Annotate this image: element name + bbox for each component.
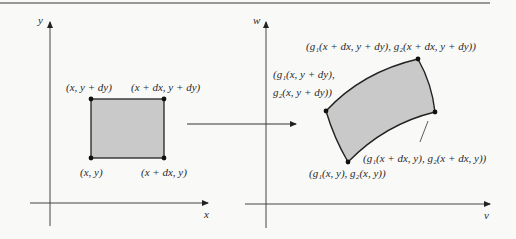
w-axis-label: w — [253, 14, 261, 26]
v-axis-label: v — [484, 209, 489, 221]
diagram-canvas: y x (x, y + dy) (x + dx, y + dy) (x, y) … — [0, 0, 516, 239]
label-top-left-line1: (g₁(x, y + dy), — [273, 68, 335, 81]
label-bottom-left: (x, y) — [80, 166, 103, 179]
label-top-right: (x + dx, y + dy) — [131, 81, 201, 94]
corner-point — [89, 97, 94, 102]
corner-point — [433, 110, 438, 115]
label-top-left: (x, y + dy) — [66, 81, 112, 94]
corner-point — [346, 160, 351, 165]
corner-point — [416, 57, 421, 62]
label-right: (g₁(x + dx, y), g₂(x + dx, y)) — [363, 152, 487, 165]
left-panel: y x (x, y + dy) (x + dx, y + dy) (x, y) … — [30, 14, 209, 226]
corner-point — [162, 156, 167, 161]
right-panel: w v (g₁(x + dx, y + dy), g₂(x + dx, y + … — [245, 14, 490, 228]
corner-point — [162, 97, 167, 102]
label-top-right: (g₁(x + dx, y + dy), g₂(x + dx, y + dy)) — [306, 40, 476, 53]
corner-point — [324, 109, 329, 114]
image-region — [326, 59, 435, 162]
corner-point — [89, 156, 94, 161]
diagram-svg: y x (x, y + dy) (x + dx, y + dy) (x, y) … — [0, 0, 516, 239]
x-axis-label: x — [203, 208, 209, 220]
source-rectangle — [91, 99, 164, 158]
label-bottom-right: (x + dx, y) — [141, 166, 187, 179]
label-bottom: (g₁(x, y), g₂(x, y)) — [309, 167, 386, 180]
y-axis-label: y — [37, 14, 43, 26]
leader-line — [420, 121, 428, 142]
label-top-left-line2: g₂(x, y + dy)) — [273, 86, 332, 99]
